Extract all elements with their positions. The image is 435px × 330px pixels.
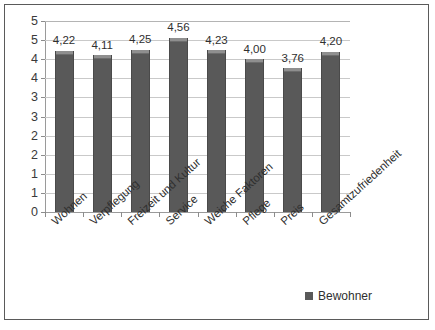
y-axis-tick-label: 2 <box>31 148 38 161</box>
y-axis-tick-label: 1 <box>31 187 38 200</box>
y-axis-tick-label: 5 <box>31 15 38 28</box>
y-axis-tick-mark <box>41 40 45 41</box>
bar: 3,76 <box>283 68 302 212</box>
bar: 4,00 <box>245 59 264 212</box>
y-axis-tick-mark <box>41 193 45 194</box>
y-axis-tick-mark <box>41 174 45 175</box>
gridline <box>45 21 350 22</box>
legend-label-bewohner: Bewohner <box>318 290 372 302</box>
y-axis-tick-mark <box>41 136 45 137</box>
y-axis-tick-mark <box>41 155 45 156</box>
chart-legend: Bewohner <box>305 290 372 302</box>
bar: 4,11 <box>93 55 112 212</box>
bar: 4,22 <box>55 51 74 212</box>
bar-top-cap <box>170 38 187 42</box>
x-axis-tick-mark <box>312 212 313 217</box>
x-axis-tick-mark <box>121 212 122 217</box>
gridline <box>45 174 350 175</box>
bar-top-cap <box>208 50 225 54</box>
bar-value-label: 4,56 <box>167 22 189 34</box>
gridline <box>45 97 350 98</box>
bar-value-label: 4,20 <box>320 36 342 48</box>
bar-value-label: 3,76 <box>282 53 304 65</box>
x-axis-tick-marks <box>45 212 350 217</box>
y-axis-tick-label: 5 <box>31 34 38 47</box>
bar-top-cap <box>284 68 301 72</box>
x-axis-tick-mark <box>350 212 351 217</box>
y-axis-tick-label: 3 <box>31 91 38 104</box>
y-axis-tick-mark <box>41 78 45 79</box>
gridline <box>45 193 350 194</box>
x-axis-tick-mark <box>159 212 160 217</box>
y-axis-tick-mark <box>41 117 45 118</box>
bar-value-label: 4,00 <box>243 44 265 56</box>
y-axis-tick-label: 0 <box>31 206 38 219</box>
gridline <box>45 117 350 118</box>
bar-top-cap <box>246 59 263 63</box>
gridline <box>45 136 350 137</box>
x-axis-tick-mark <box>274 212 275 217</box>
y-axis-tick-label: 3 <box>31 110 38 123</box>
y-axis-tick-label: 1 <box>31 168 38 181</box>
x-axis-tick-mark <box>236 212 237 217</box>
gridline <box>45 155 350 156</box>
gridline <box>45 78 350 79</box>
y-axis-tick-mark <box>41 59 45 60</box>
y-axis-tick-label: 4 <box>31 53 38 66</box>
y-axis-tick-mark <box>41 97 45 98</box>
bar-value-label: 4,25 <box>129 34 151 46</box>
y-axis-tick-label: 2 <box>31 129 38 142</box>
bar: 4,20 <box>321 52 340 212</box>
bar-top-cap <box>94 55 111 59</box>
bar-top-cap <box>56 51 73 55</box>
bar-value-label: 4,22 <box>53 35 75 47</box>
gridline <box>45 59 350 60</box>
x-axis-tick-mark <box>83 212 84 217</box>
bar-top-cap <box>322 52 339 56</box>
bar: 4,56 <box>169 38 188 212</box>
plot-area: 55443322110 4,224,114,254,564,234,003,76… <box>45 21 350 212</box>
bar-top-cap <box>132 50 149 54</box>
bar: 4,25 <box>131 50 150 212</box>
bar-value-label: 4,23 <box>205 35 227 47</box>
bar: 4,23 <box>207 50 226 212</box>
y-axis-tick-mark <box>41 21 45 22</box>
x-axis-tick-mark <box>45 212 46 217</box>
bar-value-label: 4,11 <box>91 40 113 52</box>
x-axis-tick-mark <box>198 212 199 217</box>
y-axis-tick-label: 4 <box>31 72 38 85</box>
legend-swatch-bewohner <box>305 292 313 300</box>
chart-frame: 55443322110 4,224,114,254,564,234,003,76… <box>4 4 429 320</box>
